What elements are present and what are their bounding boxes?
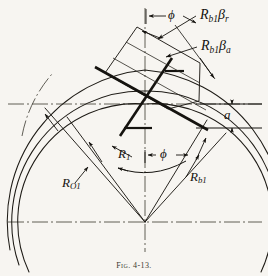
label-rb1-beta-r-base: R <box>200 7 209 22</box>
parallelogram-side-left <box>105 27 137 73</box>
label-phi-top-text: ϕ <box>168 7 175 22</box>
figure-caption: Fig. 4-13. <box>0 261 268 270</box>
beta-a-arrow <box>200 58 214 78</box>
band-parallel-1 <box>126 42 200 83</box>
label-ro1-sub: O1 <box>70 181 81 191</box>
label-rb1-sub: b1 <box>198 175 207 185</box>
pitch-circle-centerline <box>22 74 52 136</box>
figure-container: Rb1βr Rb1βa ϕ ϕ a R1 RO1 Rb1 Fig. 4-13. <box>0 0 268 276</box>
label-rb1-beta-a-sub1: b1 <box>210 45 220 55</box>
figure-caption-prefix: Fig. <box>116 261 130 270</box>
label-r1-sub: 1 <box>126 152 130 162</box>
label-rb1-beta-a-greek: β <box>219 38 226 53</box>
radius-left-Ro1 <box>45 108 145 222</box>
label-phi-top: ϕ <box>168 8 175 21</box>
label-rb1-beta-r-sub2: r <box>225 14 229 24</box>
angular-pitch-arrow <box>118 168 128 171</box>
label-rb1-beta-a-sub2: a <box>226 45 231 55</box>
radius-left-R1 <box>67 117 145 222</box>
label-rb1-beta-r-sub1: b1 <box>209 14 219 24</box>
arc-outside-Ro1 <box>7 70 268 250</box>
label-r1-base: R <box>118 146 126 161</box>
radius-right-outer <box>145 133 226 222</box>
figure-caption-number: 4-13. <box>133 261 152 270</box>
arrow-pitch-radius <box>89 142 102 162</box>
parallelogram-side-right <box>199 63 200 101</box>
label-phi-center-text: ϕ <box>160 146 167 161</box>
gear-arcs <box>7 70 268 272</box>
label-a-dimension-text: a <box>224 107 231 122</box>
label-r1: R1 <box>118 147 130 162</box>
label-rb1-base: R <box>190 169 198 184</box>
label-ro1: RO1 <box>62 176 81 191</box>
line-of-action-group <box>95 58 208 136</box>
label-rb1-beta-r-greek: β <box>218 7 225 22</box>
label-rb1-beta-a: Rb1βa <box>201 39 231 55</box>
label-rb1-beta-a-base: R <box>201 38 210 53</box>
label-ro1-base: R <box>62 175 70 190</box>
label-phi-center: ϕ <box>160 147 167 160</box>
label-rb1: Rb1 <box>190 170 207 185</box>
label-rb1-beta-r: Rb1βr <box>200 8 229 24</box>
label-a-dimension: a <box>224 108 231 121</box>
